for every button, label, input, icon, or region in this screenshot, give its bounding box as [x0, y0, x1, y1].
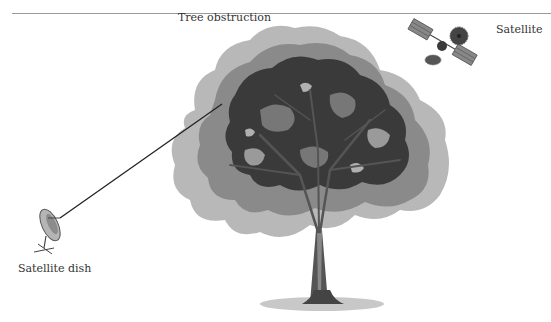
satellite-label: Satellite — [496, 23, 543, 36]
diagram-canvas: Tree obstruction Satellite Satellite dis… — [0, 0, 551, 322]
satellite-dish-icon — [34, 206, 64, 254]
tree-trunk — [302, 230, 344, 304]
satellite-icon — [408, 19, 477, 66]
tree-obstruction-label: Tree obstruction — [178, 11, 271, 24]
satellite-dish-label: Satellite dish — [18, 262, 91, 275]
